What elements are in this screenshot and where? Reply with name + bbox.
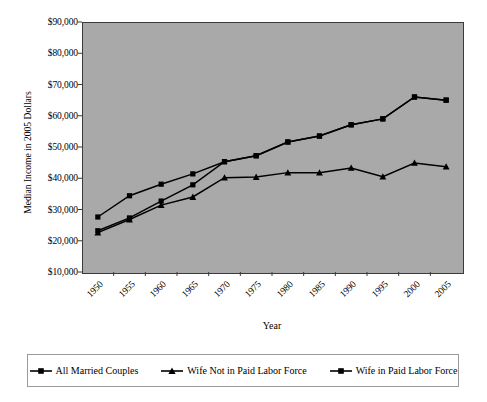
data-point-marker <box>254 153 259 158</box>
legend-square-marker-icon <box>29 365 53 377</box>
legend-entry[interactable]: Wife in Paid Labor Force <box>329 365 458 377</box>
data-point-marker <box>190 182 195 187</box>
data-point-marker <box>380 116 385 121</box>
data-point-marker <box>95 228 100 233</box>
data-point-marker <box>349 122 354 127</box>
data-point-marker <box>38 368 44 374</box>
chart-figure: $10,000$20,000$30,000$40,000$50,000$60,0… <box>0 0 487 402</box>
data-point-marker <box>285 139 290 144</box>
legend-label: All Married Couples <box>56 365 139 376</box>
data-point-marker <box>412 94 417 99</box>
data-point-marker <box>338 368 344 374</box>
data-point-marker <box>159 198 164 203</box>
data-point-marker <box>127 193 132 198</box>
data-point-marker <box>189 194 196 200</box>
data-point-marker <box>127 215 132 220</box>
series-line <box>98 97 446 217</box>
legend-label: Wife in Paid Labor Force <box>356 365 458 376</box>
series-line <box>98 163 446 233</box>
data-point-marker <box>222 159 227 164</box>
legend-label: Wife Not in Paid Labor Force <box>187 365 306 376</box>
chart-legend: All Married CouplesWife Not in Paid Labo… <box>27 354 459 387</box>
series-paths <box>94 94 449 235</box>
legend-entry[interactable]: All Married Couples <box>29 365 139 377</box>
series-layer <box>0 0 487 402</box>
data-point-marker <box>317 133 322 138</box>
legend-triangle-marker-icon <box>160 365 184 377</box>
data-point-marker <box>159 182 164 187</box>
legend-entry[interactable]: Wife Not in Paid Labor Force <box>160 365 306 377</box>
data-point-marker <box>95 214 100 219</box>
legend-square-marker-icon <box>329 365 353 377</box>
data-point-marker <box>444 98 449 103</box>
axis-ticks <box>78 22 430 276</box>
data-point-marker <box>190 171 195 176</box>
